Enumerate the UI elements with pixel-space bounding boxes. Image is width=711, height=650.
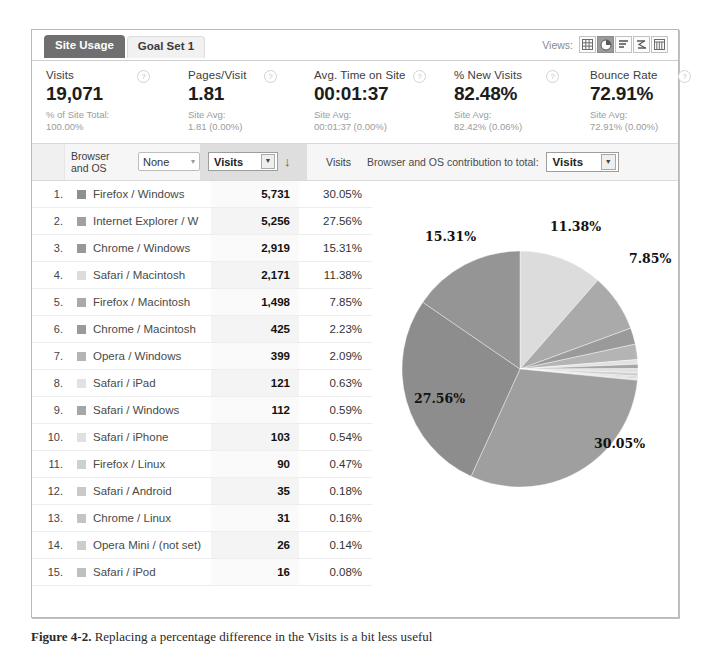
sort-control-group: Visits ▼ ↓ (200, 144, 307, 180)
pie-slice-label: 7.85% (629, 251, 671, 266)
tab-list: Site Usage Goal Set 1 (44, 35, 205, 58)
views-icon-group (578, 36, 668, 53)
table-row[interactable]: 7.Opera / Windows3992.09% (32, 343, 372, 370)
row-label-cell: Opera / Windows (69, 343, 211, 370)
table-row[interactable]: 5.Firefox / Macintosh1,4987.85% (32, 289, 372, 316)
row-label: Safari / Android (93, 485, 172, 497)
row-visits: 5,731 (211, 181, 299, 208)
table-row[interactable]: 9.Safari / Windows1120.59% (32, 397, 372, 424)
performance-view-icon[interactable] (615, 36, 632, 53)
row-visits: 425 (211, 316, 299, 343)
series-color-swatch (77, 460, 86, 469)
row-visits: 5,256 (211, 208, 299, 235)
row-label-cell: Safari / Windows (69, 397, 211, 424)
chevron-updown-icon: ▾ (191, 158, 195, 166)
help-icon[interactable]: ? (137, 70, 150, 83)
pie-slice-label: 11.38% (550, 219, 601, 234)
pie-chart-view-icon[interactable] (597, 36, 614, 53)
tab-site-usage[interactable]: Site Usage (44, 35, 125, 58)
views-toolbar: Views: (542, 36, 668, 53)
row-percent: 30.05% (299, 181, 372, 208)
secondary-dimension-select[interactable]: None ▾ (138, 152, 200, 171)
row-label-cell: Safari / iPhone (69, 424, 211, 451)
series-color-swatch (77, 406, 86, 415)
row-visits: 1,498 (211, 289, 299, 316)
figure-caption: Figure 4-2. Replacing a percentage diffe… (31, 628, 691, 650)
metric-visits-sub-label: % of Site Total: (46, 109, 174, 121)
row-percent: 0.16% (299, 505, 372, 532)
help-icon[interactable]: ? (546, 70, 559, 83)
metric-pages-per-visit-sub-label: Site Avg: (188, 109, 300, 121)
chevron-down-icon: ▼ (601, 154, 616, 170)
table-row[interactable]: 12.Safari / Android350.18% (32, 478, 372, 505)
row-percent: 11.38% (299, 262, 372, 289)
row-percent: 0.54% (299, 424, 372, 451)
table-row[interactable]: 14.Opera Mini / (not set)260.14% (32, 532, 372, 559)
table-row[interactable]: 2.Internet Explorer / W5,25627.56% (32, 208, 372, 235)
table-row[interactable]: 6.Chrome / Macintosh4252.23% (32, 316, 372, 343)
series-color-swatch (77, 352, 86, 361)
row-label: Opera / Windows (93, 350, 181, 362)
metric-bounce-rate-name: Bounce Rate (590, 69, 710, 81)
metric-pages-per-visit-value: 1.81 (188, 83, 300, 105)
row-label-cell: Firefox / Macintosh (69, 289, 211, 316)
row-rank: 9. (32, 397, 69, 424)
help-icon[interactable]: ? (678, 70, 691, 83)
pivot-view-icon[interactable] (651, 36, 668, 53)
row-visits: 35 (211, 478, 299, 505)
tab-goal-set-1[interactable]: Goal Set 1 (127, 36, 205, 58)
help-icon[interactable]: ? (264, 70, 277, 83)
table-view-icon[interactable] (579, 36, 596, 53)
sort-metric-value: Visits (214, 156, 243, 168)
sort-direction-icon[interactable]: ↓ (284, 155, 291, 168)
pie-slice-label: 27.56% (414, 391, 465, 406)
contribution-metric-select[interactable]: Visits ▼ (546, 152, 619, 172)
pie-slice-label: 15.31% (425, 229, 476, 244)
row-visits: 112 (211, 397, 299, 424)
tab-goal-set-1-label: Goal Set 1 (138, 40, 194, 52)
row-percent: 0.63% (299, 370, 372, 397)
dimension-column-header: Browser and OS (65, 144, 134, 180)
browser-os-table-wrapper: 1.Firefox / Windows5,73130.05%2.Internet… (32, 181, 372, 564)
contribution-pie-chart[interactable] (372, 181, 680, 564)
row-visits: 31 (211, 505, 299, 532)
row-rank: 14. (32, 532, 69, 559)
table-row[interactable]: 13.Chrome / Linux310.16% (32, 505, 372, 532)
row-percent: 27.56% (299, 208, 372, 235)
row-label: Safari / Windows (93, 404, 179, 416)
row-label: Chrome / Windows (93, 242, 190, 254)
table-row[interactable]: 3.Chrome / Windows2,91915.31% (32, 235, 372, 262)
metrics-summary-row: Visits ? 19,071 % of Site Total: 100.00%… (32, 61, 678, 144)
table-row[interactable]: 11.Firefox / Linux900.47% (32, 451, 372, 478)
series-color-swatch (77, 271, 86, 280)
table-row[interactable]: 1.Firefox / Windows5,73130.05% (32, 181, 372, 208)
row-rank: 2. (32, 208, 69, 235)
row-rank: 1. (32, 181, 69, 208)
row-label-cell: Safari / Macintosh (69, 262, 211, 289)
series-color-swatch (77, 325, 86, 334)
row-label-cell: Chrome / Windows (69, 235, 211, 262)
tab-strip: Site Usage Goal Set 1 Views: (32, 30, 678, 61)
table-row[interactable]: 8.Safari / iPad1210.63% (32, 370, 372, 397)
metric-new-visits-sub-value: 82.42% (0.06%) (454, 121, 522, 132)
series-color-swatch (77, 244, 86, 253)
sort-metric-select[interactable]: Visits ▼ (208, 152, 278, 171)
help-icon[interactable]: ? (413, 70, 426, 83)
table-row[interactable]: 15.Safari / iPod160.08% (32, 559, 372, 586)
row-rank: 12. (32, 478, 69, 505)
table-row[interactable]: 4.Safari / Macintosh2,17111.38% (32, 262, 372, 289)
row-rank: 15. (32, 559, 69, 586)
table-row[interactable]: 10.Safari / iPhone1030.54% (32, 424, 372, 451)
metric-pages-per-visit-name: Pages/Visit (188, 69, 300, 81)
metric-visits-name: Visits (46, 69, 174, 81)
row-percent: 2.23% (299, 316, 372, 343)
row-rank: 4. (32, 262, 69, 289)
series-color-swatch (77, 379, 86, 388)
comparison-view-icon[interactable] (633, 36, 650, 53)
row-label-cell: Chrome / Linux (69, 505, 211, 532)
metric-bounce-rate-value: 72.91% (590, 83, 710, 105)
row-percent: 0.47% (299, 451, 372, 478)
metric-bounce-rate-sub: Site Avg: 72.91% (0.00%) (590, 109, 710, 133)
row-percent: 15.31% (299, 235, 372, 262)
row-rank: 10. (32, 424, 69, 451)
